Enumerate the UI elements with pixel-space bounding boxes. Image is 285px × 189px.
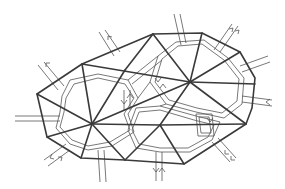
mesh-edge bbox=[190, 52, 240, 82]
flow-channel bbox=[99, 32, 114, 56]
mesh-edge bbox=[82, 64, 92, 124]
flow-channel bbox=[242, 96, 272, 100]
mesh-edge bbox=[92, 124, 125, 160]
mesh-edge bbox=[81, 124, 92, 158]
flow-channel bbox=[242, 102, 272, 106]
flow-channel bbox=[220, 26, 238, 52]
arrow-icon bbox=[229, 28, 233, 32]
triangulated-mesh bbox=[37, 33, 255, 164]
arrow-icon bbox=[160, 84, 166, 88]
mesh-edge bbox=[160, 124, 246, 125]
flow-channel bbox=[174, 14, 181, 45]
mesh-edge bbox=[92, 124, 160, 125]
mesh-edge bbox=[82, 64, 190, 82]
mesh-edge bbox=[37, 94, 92, 124]
dual-channel bbox=[138, 82, 150, 98]
dual-cell-r-inner bbox=[132, 110, 214, 148]
arrow-icon bbox=[266, 99, 270, 105]
flow-channel bbox=[180, 14, 186, 43]
mesh-edge bbox=[47, 124, 92, 137]
dual-channel bbox=[160, 104, 166, 106]
mesh-diagram bbox=[0, 0, 285, 189]
arrow-icon bbox=[225, 150, 229, 154]
mesh-edge bbox=[160, 125, 184, 164]
arrow-icon bbox=[235, 30, 239, 34]
dual-channel bbox=[132, 60, 162, 84]
flow-channel bbox=[104, 150, 106, 182]
mesh-boundary bbox=[37, 33, 255, 164]
mesh-edge bbox=[190, 82, 246, 124]
mesh-edge bbox=[190, 82, 255, 84]
flow-channel bbox=[98, 150, 100, 182]
boundary-flows bbox=[15, 14, 272, 182]
dual-cell-r-outer bbox=[128, 106, 220, 152]
